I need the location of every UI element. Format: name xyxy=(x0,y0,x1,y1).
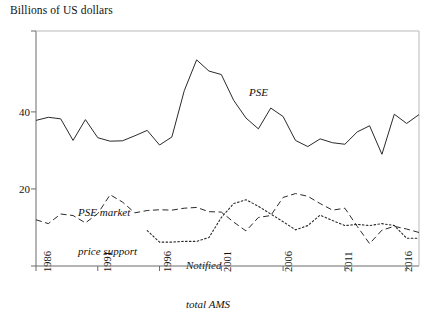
series-path-notified-total-ams xyxy=(147,200,419,242)
x-axis-ticks xyxy=(36,266,407,271)
plot-frame xyxy=(36,31,419,266)
series-path-pse-market-price-support xyxy=(36,194,419,244)
chart-canvas xyxy=(0,0,435,323)
y-axis-ticks xyxy=(31,31,36,266)
series-path-pse xyxy=(36,60,419,154)
series-paths xyxy=(36,60,419,244)
